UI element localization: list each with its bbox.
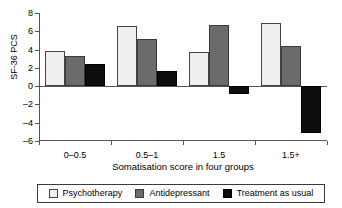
bar-group: 0–0.5: [39, 13, 111, 141]
x-tick-label: 1.5: [183, 150, 255, 160]
legend-swatch-icon: [49, 189, 58, 198]
x-tick: [255, 141, 256, 145]
x-tick: [183, 141, 184, 145]
bar: [117, 26, 137, 86]
bar-group: 0.5–1: [111, 13, 183, 141]
chart-figure: SF-36 PCS 86420–2–4–6 0–0.50.5–11.51.5+ …: [0, 0, 342, 208]
x-tick: [111, 141, 112, 145]
bar: [261, 23, 281, 86]
legend-label: Treatment as usual: [237, 189, 314, 198]
chart-legend: PsychotherapyAntidepressantTreatment as …: [37, 184, 325, 203]
x-tick-label: 0.5–1: [111, 150, 183, 160]
y-tick-label: –4: [3, 118, 33, 127]
bar: [229, 86, 249, 94]
plot-area: 86420–2–4–6 0–0.50.5–11.51.5+: [39, 13, 327, 141]
x-tick-label: 1.5+: [255, 150, 327, 160]
x-tick: [327, 141, 328, 145]
legend-item[interactable]: Antidepressant: [135, 189, 209, 198]
bar-cluster: [39, 13, 111, 141]
bar: [281, 46, 301, 86]
legend-label: Psychotherapy: [63, 189, 123, 198]
legend-swatch-icon: [135, 189, 144, 198]
legend-label: Antidepressant: [149, 189, 209, 198]
x-tick-label: 0–0.5: [39, 150, 111, 160]
legend-swatch-icon: [223, 189, 232, 198]
bar-cluster: [255, 13, 327, 141]
bar-group: 1.5: [183, 13, 255, 141]
bar-group: 1.5+: [255, 13, 327, 141]
bar: [65, 56, 85, 86]
bar: [85, 64, 105, 86]
bar: [45, 51, 65, 86]
x-axis-title: Somatisation score in four groups: [39, 161, 327, 172]
bar: [209, 25, 229, 86]
bar-cluster: [183, 13, 255, 141]
bar: [137, 39, 157, 87]
legend-item[interactable]: Psychotherapy: [49, 189, 123, 198]
y-tick-label: 6: [3, 27, 33, 36]
y-tick-label: 4: [3, 45, 33, 54]
y-tick-label: –6: [3, 137, 33, 146]
bar: [157, 71, 177, 87]
y-tick-label: 0: [3, 82, 33, 91]
bar: [301, 86, 321, 133]
bar-cluster: [111, 13, 183, 141]
y-tick-label: 8: [3, 9, 33, 18]
bar: [189, 52, 209, 86]
y-tick-label: 2: [3, 63, 33, 72]
x-tick: [39, 141, 40, 145]
y-tick-label: –2: [3, 100, 33, 109]
legend-item[interactable]: Treatment as usual: [223, 189, 314, 198]
